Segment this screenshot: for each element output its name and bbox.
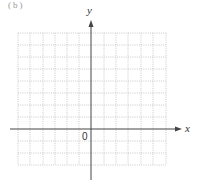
grid-lines bbox=[18, 33, 166, 165]
y-axis-arrow-icon bbox=[89, 20, 94, 27]
origin-label: 0 bbox=[82, 131, 88, 142]
coordinate-grid bbox=[0, 0, 198, 191]
y-axis-label: y bbox=[87, 4, 92, 16]
x-axis-arrow-icon bbox=[175, 127, 182, 132]
x-axis-label: x bbox=[185, 122, 190, 134]
